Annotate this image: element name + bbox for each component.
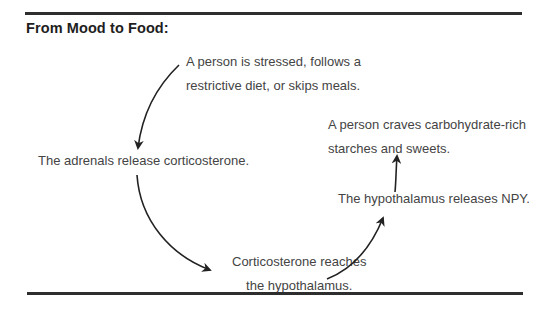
node-adrenals-line-1: The adrenals release corticosterone. bbox=[38, 149, 249, 173]
node-craves-line-2: starches and sweets. bbox=[328, 137, 526, 161]
diagram-title: From Mood to Food: bbox=[26, 20, 169, 36]
bottom-rule bbox=[27, 292, 523, 295]
node-stress-line-2: restrictive diet, or skips meals. bbox=[186, 74, 361, 98]
node-stress: A person is stressed, follows a restrict… bbox=[186, 50, 361, 98]
node-npy-line-1: The hypothalamus releases NPY. bbox=[338, 187, 530, 211]
arrow-stress-to-adrenals-icon bbox=[138, 65, 179, 148]
node-corticosterone: Corticosterone reaches the hypothalamus. bbox=[232, 250, 366, 298]
node-craves-line-1: A person craves carbohydrate-rich bbox=[328, 113, 526, 137]
top-rule bbox=[25, 12, 522, 15]
node-npy: The hypothalamus releases NPY. bbox=[338, 187, 530, 211]
arrow-adrenals-to-corticosterone-icon bbox=[137, 175, 210, 270]
node-stress-line-1: A person is stressed, follows a bbox=[186, 50, 361, 74]
node-craves: A person craves carbohydrate-rich starch… bbox=[328, 113, 526, 161]
node-adrenals: The adrenals release corticosterone. bbox=[38, 149, 249, 173]
node-corticosterone-line-1: Corticosterone reaches bbox=[232, 250, 366, 274]
